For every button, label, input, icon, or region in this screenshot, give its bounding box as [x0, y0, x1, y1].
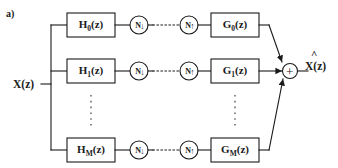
synthesis-filter-name-M: G — [221, 143, 230, 155]
up-arrow-icon: ↑ — [190, 146, 194, 156]
analysis-filter-arg-1: (z) — [91, 64, 103, 76]
analysis-filter-name-0: H — [79, 18, 88, 30]
input-signal-label: X(z) — [13, 79, 34, 91]
up-arrow-icon: ↑ — [190, 21, 194, 31]
synthesis-filter-label-0: G0(z) — [211, 19, 259, 33]
synthesis-filter-label-1: G1(z) — [211, 65, 259, 79]
down-arrow-icon: ↓ — [140, 146, 144, 156]
wire-gM-to-adder — [269, 79, 283, 150]
analysis-filter-label-M: HM(z) — [67, 144, 115, 158]
upsampler-label-M: N↑ — [181, 146, 199, 155]
downsampler-label-1: N↓ — [131, 67, 149, 76]
synthesis-filter-name-1: G — [223, 64, 232, 76]
down-arrow-icon: ↓ — [140, 21, 144, 31]
synthesis-filter-index-M: M — [230, 149, 237, 158]
synthesis-filter-label-M: GM(z) — [211, 144, 259, 158]
output-signal-label: X(z) — [305, 61, 326, 73]
output-hat-accent: ^ — [311, 49, 317, 60]
downsampler-label-0: N↓ — [131, 21, 149, 30]
upsampler-label-1: N↑ — [181, 67, 199, 76]
down-arrow-icon: ↓ — [140, 67, 144, 77]
upsampler-label-0: N↑ — [181, 21, 199, 30]
analysis-filter-label-0: H0(z) — [67, 19, 115, 33]
analysis-filter-label-1: H1(z) — [67, 65, 115, 79]
analysis-filter-arg-M: (z) — [93, 143, 105, 155]
analysis-filter-name-1: H — [79, 64, 88, 76]
wire-g0-to-adder — [269, 25, 282, 62]
panel-label: a) — [6, 9, 14, 19]
downsampler-label-M: N↓ — [131, 146, 149, 155]
synthesis-filter-name-0: G — [223, 18, 232, 30]
up-arrow-icon: ↑ — [190, 67, 194, 77]
plus-icon: + — [286, 65, 293, 78]
analysis-filter-index-M: M — [86, 149, 93, 158]
synthesis-filter-arg-0: (z) — [235, 18, 247, 30]
diagram-wiring — [0, 0, 338, 168]
synthesis-filter-arg-M: (z) — [237, 143, 249, 155]
analysis-filter-name-M: H — [77, 143, 86, 155]
analysis-filter-arg-0: (z) — [91, 18, 103, 30]
synthesis-filter-arg-1: (z) — [235, 64, 247, 76]
filter-bank-diagram: a) X(z) ^ X(z) H0(z) H1(z) HM(z) G0(z) G… — [0, 0, 338, 168]
